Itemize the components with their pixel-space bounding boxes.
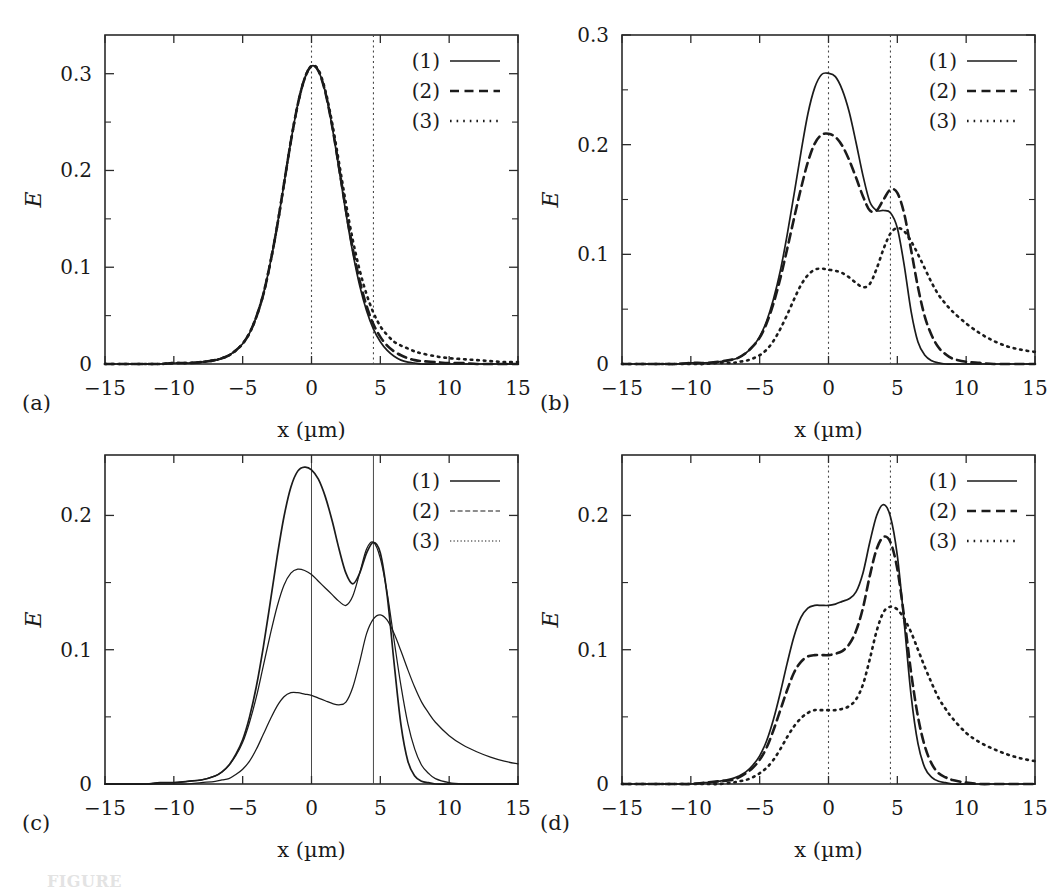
x-axis-title: x (µm) xyxy=(794,418,862,442)
x-axis-title: x (µm) xyxy=(794,838,862,862)
plot-panel-d: −15−10−505101500.10.2x (µm)E(1)(2)(3) xyxy=(527,441,1051,870)
legend-label-1: (1) xyxy=(412,469,440,493)
y-axis-title: E xyxy=(538,191,563,208)
x-tick-label: −10 xyxy=(670,796,712,820)
panel-tag-c: (c) xyxy=(22,811,50,835)
x-tick-label: −15 xyxy=(601,376,643,400)
x-tick-label: −15 xyxy=(84,796,126,820)
y-tick-label: 0 xyxy=(79,772,92,796)
y-tick-label: 0.1 xyxy=(577,242,609,266)
legend-label-3: (3) xyxy=(412,529,440,553)
y-axis-title: E xyxy=(21,611,46,628)
x-tick-label: −5 xyxy=(228,376,257,400)
legend-label-1: (1) xyxy=(929,469,957,493)
x-tick-label: −10 xyxy=(153,376,195,400)
x-tick-label: 10 xyxy=(436,376,461,400)
x-tick-label: −5 xyxy=(228,796,257,820)
y-tick-label: 0.2 xyxy=(60,158,92,182)
y-tick-label: 0 xyxy=(596,772,609,796)
legend-label-3: (3) xyxy=(929,109,957,133)
x-tick-label: −10 xyxy=(670,376,712,400)
x-tick-label: −15 xyxy=(601,796,643,820)
x-tick-label: 5 xyxy=(891,376,904,400)
panel-tag-d: (d) xyxy=(540,811,570,835)
legend-label-1: (1) xyxy=(929,49,957,73)
x-tick-label: 0 xyxy=(822,796,835,820)
plot-frame xyxy=(622,455,1035,784)
plot-panel-a: −15−10−505101500.10.20.3x (µm)E(1)(2)(3) xyxy=(10,21,534,450)
figure-caption: FIGURE xyxy=(47,872,122,889)
y-tick-label: 0.3 xyxy=(577,23,609,47)
plot-frame xyxy=(622,35,1035,364)
y-axis-title: E xyxy=(538,611,563,628)
legend-label-3: (3) xyxy=(929,529,957,553)
legend-label-2: (2) xyxy=(412,79,440,103)
x-tick-label: −5 xyxy=(745,376,774,400)
legend-label-2: (2) xyxy=(929,499,957,523)
legend-label-2: (2) xyxy=(929,79,957,103)
plot-svg: −15−10−505101500.10.20.3x (µm)E(1)(2)(3) xyxy=(527,21,1051,450)
y-tick-label: 0 xyxy=(79,352,92,376)
x-tick-label: −5 xyxy=(745,796,774,820)
x-tick-label: 10 xyxy=(953,376,978,400)
x-tick-label: −15 xyxy=(84,376,126,400)
legend-label-1: (1) xyxy=(412,49,440,73)
data-curve-1 xyxy=(105,66,518,365)
y-axis-title: E xyxy=(21,191,46,208)
y-tick-label: 0.2 xyxy=(60,503,92,527)
legend-label-2: (2) xyxy=(412,499,440,523)
plot-svg: −15−10−505101500.10.20.3x (µm)E(1)(2)(3) xyxy=(10,21,534,450)
x-tick-label: 10 xyxy=(953,796,978,820)
y-tick-label: 0.2 xyxy=(577,133,609,157)
plot-svg: −15−10−505101500.10.2x (µm)E(1)(2)(3) xyxy=(527,441,1051,870)
y-tick-label: 0.3 xyxy=(60,62,92,86)
figure-root: −15−10−505101500.10.20.3x (µm)E(1)(2)(3)… xyxy=(0,0,1064,889)
x-tick-label: 0 xyxy=(822,376,835,400)
panel-tag-a: (a) xyxy=(22,391,51,415)
x-tick-label: 15 xyxy=(1022,376,1047,400)
plot-frame xyxy=(105,35,518,364)
plot-svg: −15−10−505101500.10.2x (µm)E(1)(2)(3) xyxy=(10,441,534,870)
data-curve-3 xyxy=(105,65,518,364)
x-tick-label: 15 xyxy=(1022,796,1047,820)
y-tick-label: 0.1 xyxy=(60,255,92,279)
y-tick-label: 0 xyxy=(596,352,609,376)
x-tick-label: 5 xyxy=(374,796,387,820)
y-tick-label: 0.2 xyxy=(577,503,609,527)
plot-panel-b: −15−10−505101500.10.20.3x (µm)E(1)(2)(3) xyxy=(527,21,1051,450)
x-tick-label: −10 xyxy=(153,796,195,820)
x-tick-label: 0 xyxy=(305,796,318,820)
x-tick-label: 0 xyxy=(305,376,318,400)
panel-tag-b: (b) xyxy=(540,391,570,415)
y-tick-label: 0.1 xyxy=(577,638,609,662)
x-axis-title: x (µm) xyxy=(277,418,345,442)
x-tick-label: 5 xyxy=(374,376,387,400)
legend-label-3: (3) xyxy=(412,109,440,133)
x-tick-label: 5 xyxy=(891,796,904,820)
data-curve-2 xyxy=(105,66,518,365)
x-tick-label: 10 xyxy=(436,796,461,820)
x-axis-title: x (µm) xyxy=(277,838,345,862)
y-tick-label: 0.1 xyxy=(60,638,92,662)
plot-panel-c: −15−10−505101500.10.2x (µm)E(1)(2)(3) xyxy=(10,441,534,870)
